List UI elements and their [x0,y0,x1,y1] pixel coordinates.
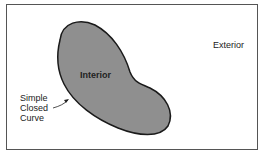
interior-label: Interior [80,70,111,80]
curve-label-line3: Curve [20,113,48,123]
curve-label-line1: Simple [20,93,48,103]
closed-curve-figure [0,0,265,156]
simple-closed-curve-label: Simple Closed Curve [20,93,48,123]
curve-label-line2: Closed [20,103,48,113]
interior-region [58,22,171,135]
exterior-label: Exterior [213,40,244,50]
